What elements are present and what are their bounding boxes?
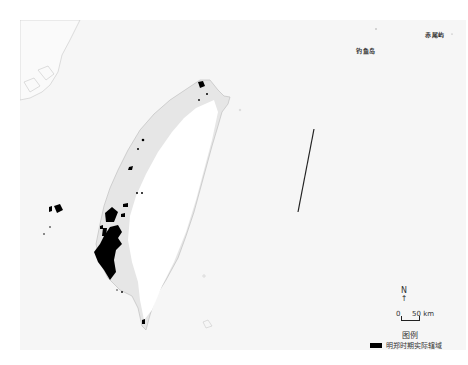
legend-title: 图例 xyxy=(402,329,418,340)
penghu-islands xyxy=(43,204,63,235)
mainland-coast xyxy=(20,20,80,100)
scale-bar xyxy=(401,316,420,321)
label-diaoyu-island: 钓鱼岛 xyxy=(356,46,376,55)
north-arrow: N ↑ xyxy=(398,287,410,303)
scale-start: 0 xyxy=(396,310,400,318)
boundary-line xyxy=(298,129,314,212)
legend-swatch xyxy=(370,343,382,348)
label-chiwei-island: 赤尾屿 xyxy=(425,30,445,39)
legend-item: 明郑时期实际辖域 xyxy=(370,340,442,350)
north-arrow-icon: ↑ xyxy=(398,295,410,303)
legend-item-label: 明郑时期实际辖域 xyxy=(386,340,442,350)
